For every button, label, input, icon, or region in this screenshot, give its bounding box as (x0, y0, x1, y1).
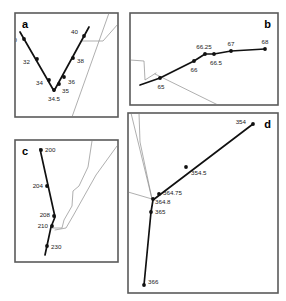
data-point-label: 354 (236, 118, 247, 125)
panel-a: 30323434.535363840a (10, 13, 118, 117)
data-point-label: 35 (62, 87, 69, 94)
data-point-marker (39, 148, 43, 152)
data-point-marker (157, 192, 161, 196)
panel-d: 354354.5364.75364.8365366d (128, 113, 278, 293)
data-point-label: 364.75 (163, 189, 182, 196)
data-point-marker (52, 214, 56, 218)
panel-letter-d: d (264, 118, 271, 130)
data-point-marker (57, 82, 61, 86)
panel-b-frame (130, 13, 278, 105)
data-point-marker (142, 283, 146, 287)
data-point-marker (263, 47, 267, 51)
panel-letter-c: c (22, 145, 28, 157)
panel-letter-b: b (264, 18, 271, 30)
data-point-marker (50, 224, 54, 228)
data-point-label: 66.5 (210, 59, 223, 66)
data-point-marker (212, 52, 216, 56)
panel-c: 200204208210230c (15, 140, 118, 262)
data-point-label: 30 (10, 36, 17, 43)
data-point-marker (251, 122, 255, 126)
data-point-marker (62, 75, 66, 79)
data-point-marker (192, 59, 196, 63)
data-point-marker (45, 184, 49, 188)
data-point-marker (149, 210, 153, 214)
data-point-label: 66.25 (196, 43, 212, 50)
data-point-label: 38 (77, 57, 84, 64)
data-point-label: 34.5 (48, 95, 61, 102)
data-point-marker (203, 52, 207, 56)
data-point-marker (82, 34, 86, 38)
data-point-label: 366 (148, 278, 159, 285)
data-point-marker (229, 49, 233, 53)
panel-letter-a: a (22, 18, 29, 30)
data-point-label: 68 (262, 38, 269, 45)
data-point-marker (184, 165, 188, 169)
figure-canvas: 30323434.535363840a656666.2566.56768b200… (0, 0, 286, 301)
panel-c-frame (15, 140, 118, 262)
data-point-marker (45, 244, 49, 248)
data-point-marker (22, 37, 26, 41)
data-point-label: 354.5 (191, 169, 207, 176)
data-point-marker (71, 56, 75, 60)
panel-a-frame (15, 13, 118, 117)
data-point-label: 34 (36, 79, 43, 86)
data-point-label: 230 (51, 243, 62, 250)
data-point-marker (52, 88, 56, 92)
data-point-label: 364.8 (155, 198, 171, 205)
data-point-label: 65 (158, 83, 165, 90)
panel-d-frame (128, 113, 278, 293)
data-point-marker (35, 57, 39, 61)
data-point-marker (47, 78, 51, 82)
data-point-label: 208 (40, 211, 51, 218)
data-point-label: 32 (23, 58, 30, 65)
data-point-marker (158, 76, 162, 80)
data-point-label: 204 (33, 182, 44, 189)
data-point-label: 36 (68, 78, 75, 85)
data-point-label: 40 (71, 28, 78, 35)
data-point-label: 66 (191, 66, 198, 73)
multi-panel-figure: 30323434.535363840a656666.2566.56768b200… (0, 0, 286, 301)
data-point-label: 67 (228, 40, 235, 47)
data-point-label: 210 (38, 222, 49, 229)
panel-b: 656666.2566.56768b (130, 13, 278, 105)
data-point-label: 200 (45, 146, 56, 153)
data-point-label: 365 (155, 208, 166, 215)
